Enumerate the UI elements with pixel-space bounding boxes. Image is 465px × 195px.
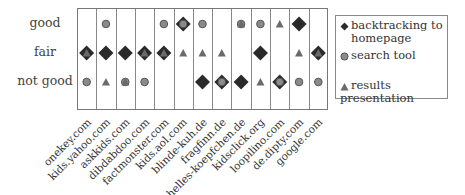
legend-label: results presentation [340, 78, 414, 105]
diamond-marker [118, 46, 133, 61]
diamond-marker [253, 46, 268, 61]
circle-marker [179, 20, 187, 28]
circle-marker [295, 78, 303, 86]
legend-label: search tool [351, 48, 416, 62]
circle-marker [83, 78, 91, 86]
triangle-icon [340, 82, 349, 91]
circle-marker [315, 78, 323, 86]
circle-marker [199, 20, 207, 28]
circle-marker [276, 78, 284, 86]
circle-icon [340, 52, 349, 61]
diamond-marker [195, 75, 210, 90]
triangle-marker [295, 49, 303, 57]
circle-marker [218, 78, 226, 86]
legend-item-search-tool: search tool [340, 49, 416, 62]
diamond-marker [98, 46, 113, 61]
circle-marker [141, 78, 149, 86]
legend-label-cont: homepage [340, 31, 411, 45]
diamond-marker [234, 75, 249, 90]
diamond-marker [292, 17, 307, 32]
diamond-icon [340, 22, 349, 31]
legend-item-results-presentation: results presentation [340, 79, 447, 105]
circle-marker [160, 20, 168, 28]
triangle-marker [102, 78, 110, 86]
triangle-marker [256, 78, 264, 86]
triangle-marker [179, 49, 187, 57]
circle-marker [257, 20, 265, 28]
circle-marker [102, 20, 110, 28]
rating-chart: good fair not good onekey.comkids.yahoo.… [0, 0, 465, 195]
legend-item-backtracking: backtracking to homepage [340, 19, 443, 45]
triangle-marker [276, 20, 284, 28]
triangle-marker [218, 49, 226, 57]
triangle-marker [199, 49, 207, 57]
legend: backtracking to homepage search tool res… [335, 15, 448, 99]
legend-label: backtracking to [351, 18, 443, 32]
